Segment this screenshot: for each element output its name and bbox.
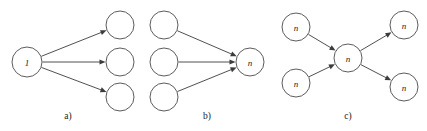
edge-line xyxy=(360,35,387,51)
graph-node-a-src[interactable]: 1 xyxy=(12,47,42,77)
edge-line xyxy=(308,34,331,48)
edge-c-mid-to-c-dst2 xyxy=(361,65,391,81)
node-label: n xyxy=(402,21,407,31)
graph-node-b-dst[interactable]: n xyxy=(236,48,264,76)
edge-line xyxy=(309,66,331,76)
arrow-head-icon xyxy=(100,30,107,35)
node-label: 1 xyxy=(25,58,30,68)
panel-caption-b: b) xyxy=(203,111,211,122)
node-circle xyxy=(150,48,178,76)
node-circle xyxy=(106,11,134,39)
node-label: n xyxy=(402,83,407,93)
node-circle xyxy=(150,83,178,111)
arrow-head-icon xyxy=(100,59,106,64)
edge-line xyxy=(42,67,103,90)
edge-a-src-to-a-dst1 xyxy=(41,30,106,56)
panel-caption-c: c) xyxy=(344,111,351,122)
graph-node-c-src1[interactable]: n xyxy=(282,13,310,41)
graph-node-a-dst1[interactable] xyxy=(106,11,134,39)
graph-node-b-src3[interactable] xyxy=(150,83,178,111)
node-circle xyxy=(106,48,134,76)
figure-container: 1nnnnnn a)b)c) xyxy=(0,0,427,131)
edge-line xyxy=(177,31,232,55)
edge-b-src2-to-b-dst xyxy=(179,59,236,64)
graph-node-c-mid[interactable]: n xyxy=(334,44,362,72)
arrow-head-icon xyxy=(329,45,335,50)
node-circle xyxy=(150,11,178,39)
node-label: n xyxy=(294,79,299,89)
edge-line xyxy=(41,32,102,56)
arrow-head-icon xyxy=(230,59,236,64)
graph-node-a-dst2[interactable] xyxy=(106,48,134,76)
graph-node-c-dst1[interactable]: n xyxy=(390,11,418,39)
node-circle xyxy=(106,83,134,111)
panel-captions-layer: a)b)c) xyxy=(64,111,351,122)
arrow-head-icon xyxy=(100,87,107,92)
edge-b-src3-to-b-dst xyxy=(177,67,236,91)
graph-node-c-src2[interactable]: n xyxy=(282,69,310,97)
nodes-layer: 1nnnnnn xyxy=(12,11,418,111)
edge-b-src1-to-b-dst xyxy=(177,31,236,57)
node-label: n xyxy=(294,23,299,33)
arrow-head-icon xyxy=(385,32,391,37)
panel-caption-a: a) xyxy=(64,111,71,122)
node-label: n xyxy=(346,54,351,64)
graph-node-c-dst2[interactable]: n xyxy=(390,73,418,101)
graph-node-a-dst3[interactable] xyxy=(106,83,134,111)
edge-a-src-to-a-dst2 xyxy=(43,59,106,64)
edge-a-src-to-a-dst3 xyxy=(42,67,107,92)
edge-c-src2-to-c-mid xyxy=(309,64,335,76)
edge-c-mid-to-c-dst1 xyxy=(360,32,391,50)
graph-diagram-svg: 1nnnnnn a)b)c) xyxy=(0,0,427,131)
graph-node-b-src2[interactable] xyxy=(150,48,178,76)
arrow-head-icon xyxy=(230,67,237,72)
edge-line xyxy=(361,65,387,79)
node-label: n xyxy=(248,58,253,68)
edge-c-src1-to-c-mid xyxy=(308,34,335,50)
edge-line xyxy=(177,69,232,91)
graph-node-b-src1[interactable] xyxy=(150,11,178,39)
